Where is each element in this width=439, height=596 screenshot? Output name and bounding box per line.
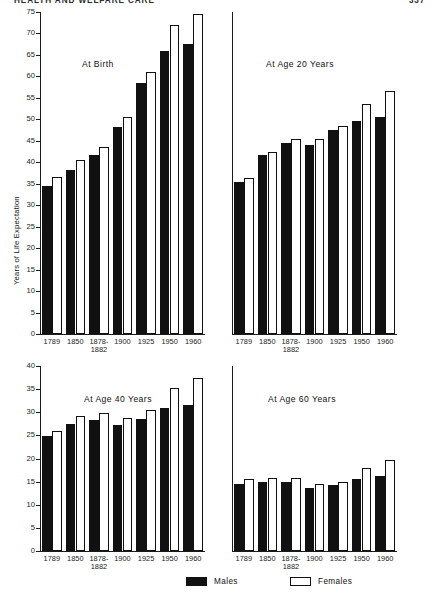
legend-swatch-females [290,577,311,586]
bar-females [76,416,86,551]
x-axis-line [40,334,205,335]
y-tick [36,389,40,390]
x-tick-label-line: 1900 [306,554,322,563]
y-tick-label: 65 [27,51,35,59]
bar-females [123,117,133,334]
bar-females [52,177,62,334]
x-tick-label-line: 1882 [87,346,111,354]
bar-males [258,482,268,551]
panel-title: At Age 40 Years [84,394,152,404]
figure-legend: MalesFemales [0,576,439,596]
bar-females [385,460,395,551]
x-tick-label: 1960 [181,555,205,563]
y-tick-label: 30 [27,201,35,209]
bar-males [42,186,52,334]
bar-females [170,25,180,334]
x-tick-label: 1878-1882 [87,338,111,355]
x-tick-label: 1789 [232,555,256,563]
x-tick-label-line: 1960 [185,554,201,563]
legend-label-females: Females [318,577,352,586]
y-tick-label: 10 [27,501,35,509]
x-tick-label: 1925 [326,338,350,346]
figure-page: HEALTH AND WELFARE CARE 337 Years of Lif… [0,0,439,596]
bar-females [291,139,301,334]
y-tick-label: 10 [27,287,35,295]
y-tick-label: 75 [27,8,35,16]
y-tick-label: 40 [27,158,35,166]
running-head: HEALTH AND WELFARE CARE 337 [0,0,439,8]
x-tick-label: 1925 [134,338,158,346]
x-tick-label: 1850 [64,338,88,346]
y-axis-caption: Years of Life Expectation [12,196,21,285]
y-tick [36,98,40,99]
y-tick-label: 0 [31,330,35,338]
x-tick-label-line: 1789 [236,554,252,563]
y-tick [36,205,40,206]
bar-males [89,420,99,551]
bar-males [234,484,244,551]
running-head-title: HEALTH AND WELFARE CARE [14,0,155,5]
bar-males [136,83,146,334]
y-tick-label: 0 [31,547,35,555]
x-tick-label: 1878-1882 [279,338,303,355]
bar-males [305,488,315,551]
y-tick-label: 60 [27,73,35,81]
bar-males [305,145,315,334]
bar-males [328,485,338,551]
bar-females [268,152,278,334]
legend-label-males: Males [214,577,238,586]
y-tick [36,551,40,552]
x-tick-label: 1850 [256,555,280,563]
y-tick-label: 35 [27,180,35,188]
x-tick-label-line: 1960 [377,554,393,563]
x-tick-label-line: 1950 [353,554,369,563]
y-axis-line [40,12,41,334]
y-tick-label: 5 [31,524,35,532]
bar-males [113,425,123,551]
y-tick-label: 25 [27,223,35,231]
x-tick-label-line: 1850 [259,337,275,346]
y-tick [36,435,40,436]
y-axis-line [40,366,41,551]
x-tick-label: 1900 [111,555,135,563]
chart-panel-bottom-right: 178918501878-18821900192519501960At Age … [232,366,397,551]
y-tick [36,334,40,335]
bar-males [258,155,268,334]
x-tick-label: 1900 [303,555,327,563]
y-tick-label: 20 [27,244,35,252]
x-axis-line [232,551,397,552]
bar-females [146,410,156,551]
x-tick-label-line: 1925 [138,554,154,563]
bar-females [170,388,180,551]
bar-females [315,484,325,551]
y-tick-label: 15 [27,266,35,274]
x-tick-label-line: 1882 [279,563,303,571]
bar-males [281,482,291,551]
bar-females [362,104,372,334]
x-tick-label-line: 1900 [306,337,322,346]
y-tick [36,12,40,13]
y-tick [36,141,40,142]
x-tick-label: 1878-1882 [87,555,111,572]
y-tick-label: 55 [27,94,35,102]
panel-title: At Age 20 Years [266,59,334,69]
y-tick [36,184,40,185]
bar-females [193,378,203,551]
bar-males [183,405,193,551]
bar-males [375,476,385,551]
x-tick-label: 1789 [40,555,64,563]
x-axis-line [232,334,397,335]
x-tick-label: 1960 [373,555,397,563]
y-tick [36,76,40,77]
bar-females [244,479,254,551]
x-tick-label: 1925 [134,555,158,563]
y-axis-line [232,366,233,551]
bar-males [281,143,291,334]
x-tick-label-line: 1925 [330,554,346,563]
y-tick [36,505,40,506]
y-tick [36,55,40,56]
bar-males [89,155,99,334]
x-tick-label: 1950 [158,338,182,346]
x-tick-label: 1950 [158,555,182,563]
bar-males [136,419,146,551]
